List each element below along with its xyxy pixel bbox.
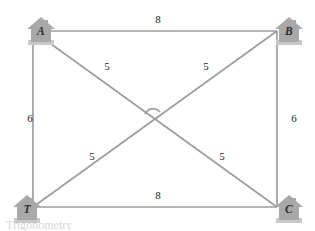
caption: Trigonometry	[6, 219, 126, 231]
edge-label-top: 8	[148, 13, 168, 25]
edge-label-bottom: 8	[148, 189, 168, 201]
node-A-label: A	[24, 24, 58, 38]
node-A: A	[24, 14, 58, 46]
diagonal-label-upper-right: 5	[196, 60, 216, 72]
edge-label-left: 6	[20, 112, 40, 124]
diagonal-label-lower-left: 5	[82, 150, 102, 162]
diagonal-label-upper-left: 5	[97, 60, 117, 72]
node-B: B	[272, 14, 306, 46]
caption-text: Trigonometry	[6, 219, 126, 231]
node-T-label: T	[10, 202, 44, 216]
edge-label-right: 6	[284, 112, 304, 124]
node-C-label: C	[272, 202, 306, 216]
node-B-label: B	[272, 24, 306, 38]
node-C: C	[272, 192, 306, 224]
figure-page: A B C T 8 8 6 6 5 5 5 5 Tri	[0, 0, 315, 231]
diagonal-label-lower-right: 5	[212, 150, 232, 162]
